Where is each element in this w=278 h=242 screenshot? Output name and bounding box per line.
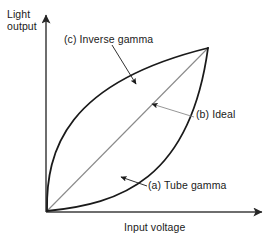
leader-ideal	[152, 104, 194, 117]
y-axis-label: Light output	[7, 9, 51, 32]
x-axis-label: Input voltage	[124, 222, 185, 233]
curve-label-tube-gamma: (a) Tube gamma	[148, 180, 226, 191]
y-axis-label-line2: output	[7, 21, 51, 33]
y-axis-label-line1: Light	[7, 9, 51, 21]
gamma-curves-figure: Light output Input voltage (c) Inverse g…	[0, 0, 278, 242]
curve-label-ideal: (b) Ideal	[196, 109, 235, 120]
leader-tube-gamma	[121, 177, 147, 186]
curve-label-inverse-gamma: (c) Inverse gamma	[64, 34, 153, 45]
